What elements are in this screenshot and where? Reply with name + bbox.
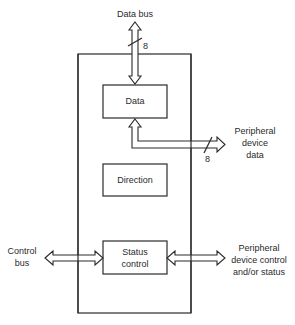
status-control-label-line1: Status [122,247,148,257]
data-bus-label: Data bus [117,9,154,19]
control-bus-label-line1: Control [7,246,36,256]
control-bus-label-line2: bus [15,258,30,268]
peripheral-data-label-line1: Peripheral [234,126,275,136]
interface-block-diagram: Data bus 8 Data 8 Peripheral device data… [0,0,295,325]
peripheral-data-label-line3: data [246,150,264,160]
peripheral-control-label-line1: Peripheral [238,243,279,253]
peripheral-data-label-line2: device [242,138,268,148]
data-block-label: Data [125,96,144,106]
peripheral-control-label-line3: and/or status [233,267,286,277]
data-bus-width-label: 8 [143,41,148,51]
status-control-block [103,241,167,274]
direction-block-label: Direction [117,175,153,185]
peripheral-data-width-label: 8 [205,154,210,164]
status-control-label-line2: control [121,259,148,269]
peripheral-control-label-line2: device control [231,255,287,265]
